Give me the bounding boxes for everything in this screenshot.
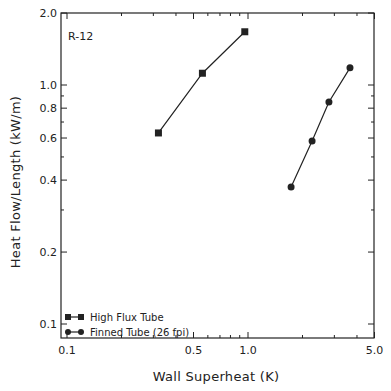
y-tick-label: 0.4 bbox=[40, 174, 58, 187]
plot-border bbox=[61, 13, 374, 338]
y-axis-label: Heat Flow/Length (kW/m) bbox=[8, 96, 23, 268]
x-tick-label: 5.0 bbox=[366, 344, 384, 357]
y-tick-label: 0.8 bbox=[40, 102, 58, 115]
square-marker-icon bbox=[199, 70, 206, 77]
circle-marker-icon bbox=[346, 64, 353, 71]
axis-ticks: 0.10.51.05.00.10.20.40.60.81.02.0 bbox=[40, 7, 384, 357]
y-tick-label: 1.0 bbox=[40, 79, 58, 92]
circle-marker-icon bbox=[309, 138, 316, 145]
legend-square-marker-icon bbox=[65, 314, 71, 320]
series-high-flux-tube bbox=[155, 28, 248, 136]
legend-item-finned-tube: Finned Tube (26 fpi) bbox=[65, 327, 189, 338]
plot-frame bbox=[61, 13, 374, 338]
legend-label: High Flux Tube bbox=[90, 312, 164, 323]
y-tick-label: 0.2 bbox=[40, 246, 58, 259]
x-tick-label: 0.5 bbox=[185, 344, 203, 357]
y-tick-label: 2.0 bbox=[40, 7, 58, 20]
legend-label: Finned Tube (26 fpi) bbox=[90, 327, 189, 338]
circle-marker-icon bbox=[288, 184, 295, 191]
x-axis-label: Wall Superheat (K) bbox=[153, 369, 280, 384]
circle-marker-icon bbox=[325, 98, 332, 105]
chart: 0.10.51.05.00.10.20.40.60.81.02.0 R-12 W… bbox=[0, 0, 391, 391]
legend-circle-marker-icon bbox=[65, 329, 71, 335]
x-tick-label: 1.0 bbox=[239, 344, 257, 357]
series-finned-tube bbox=[288, 64, 354, 190]
square-marker-icon bbox=[241, 28, 248, 35]
y-tick-label: 0.6 bbox=[40, 132, 58, 145]
annotation-r12: R-12 bbox=[68, 30, 93, 43]
legend: High Flux Tube Finned Tube (26 fpi) bbox=[65, 312, 189, 338]
data-series bbox=[155, 28, 354, 190]
y-tick-label: 0.1 bbox=[40, 318, 58, 331]
legend-circle-marker-icon bbox=[78, 329, 84, 335]
series-line bbox=[291, 68, 350, 187]
series-line bbox=[158, 32, 244, 133]
x-tick-label: 0.1 bbox=[58, 344, 76, 357]
legend-square-marker-icon bbox=[78, 314, 84, 320]
legend-item-high-flux: High Flux Tube bbox=[65, 312, 164, 323]
square-marker-icon bbox=[155, 129, 162, 136]
